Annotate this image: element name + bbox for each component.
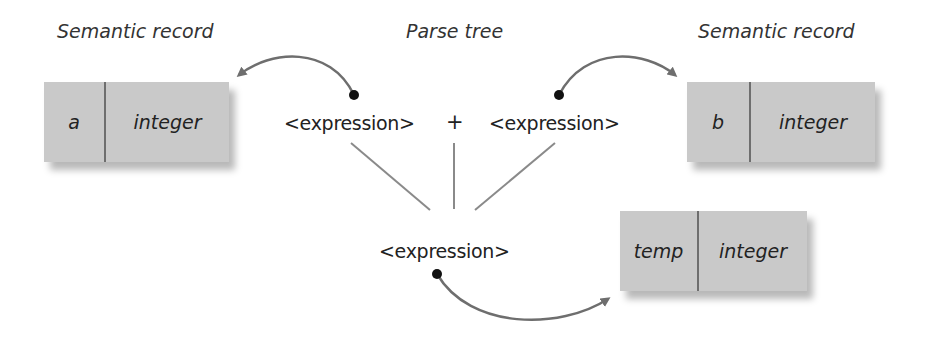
pointer-dot-right (554, 90, 564, 100)
arrow-to-record-temp (437, 274, 608, 320)
parse-node-left-expression: <expression> (284, 112, 415, 134)
record-name-cell: temp (620, 211, 699, 291)
parse-node-right-expression: <expression> (489, 112, 620, 134)
arrow-to-record-a (239, 57, 354, 95)
semantic-record-temp: temp integer (620, 211, 807, 291)
pointer-dot-root (432, 269, 442, 279)
record-type-cell: integer (106, 82, 229, 162)
record-name-cell: a (44, 82, 106, 162)
tree-edge-left (351, 143, 430, 210)
record-type-cell: integer (699, 211, 807, 291)
parse-tree-title: Parse tree (406, 20, 503, 42)
pointer-dot-left (349, 90, 359, 100)
semantic-record-b: b integer (687, 82, 875, 162)
semantic-record-title-right: Semantic record (698, 20, 855, 42)
semantic-record-title-left: Semantic record (57, 20, 214, 42)
record-type-cell: integer (751, 82, 875, 162)
semantic-record-a: a integer (44, 82, 229, 162)
record-name-cell: b (687, 82, 751, 162)
tree-edge-right (475, 143, 555, 210)
parse-node-plus-operator: + (446, 110, 463, 134)
arrow-to-record-b (559, 57, 675, 95)
parse-node-root-expression: <expression> (379, 240, 510, 262)
